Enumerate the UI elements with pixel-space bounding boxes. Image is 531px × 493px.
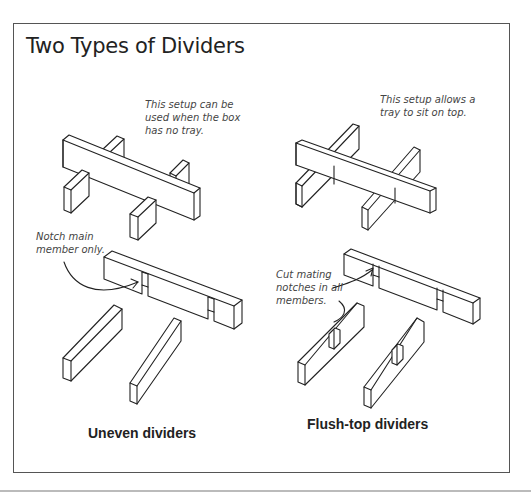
uneven-loose-crosspiece-1 xyxy=(63,305,122,381)
uneven-front-crosspiece-2 xyxy=(130,197,156,240)
diagram-drawing xyxy=(0,0,531,493)
uneven-notched-main-member xyxy=(104,251,242,329)
uneven-front-crosspiece-1 xyxy=(64,170,89,213)
flush-assembled-illustration xyxy=(296,124,436,230)
uneven-loose-crosspiece-2 xyxy=(130,318,181,404)
flush-loose-crosspiece-2 xyxy=(364,318,424,408)
uneven-assembled-illustration xyxy=(63,135,200,240)
flush-loose-crosspiece-1 xyxy=(298,303,364,385)
